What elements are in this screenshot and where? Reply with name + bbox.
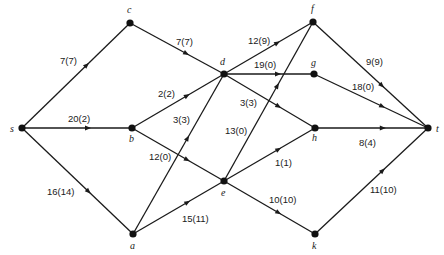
edge-label-d-g: 19(0) [254, 59, 276, 70]
node-label-g: g [311, 57, 316, 68]
arrow-icon [275, 103, 281, 108]
edge-a-e [133, 181, 224, 234]
edge-label-g-t: 18(0) [352, 81, 374, 92]
node-label-f: f [311, 3, 315, 14]
edge-label-b-d: 2(2) [158, 88, 175, 99]
node-g [310, 70, 317, 77]
node-t [424, 124, 431, 131]
edge-label-a-d: 3(3) [173, 114, 190, 125]
flow-network-diagram: 7(7)20(2)16(14)7(7)2(2)12(0)3(3)15(11)12… [0, 0, 444, 255]
node-b [128, 124, 135, 131]
labels-layer: 7(7)20(2)16(14)7(7)2(2)12(0)3(3)15(11)12… [10, 3, 439, 251]
arrow-icon [380, 126, 386, 131]
edge-a-d [133, 74, 224, 234]
arrow-icon [183, 156, 189, 161]
edge-label-b-e: 12(0) [149, 151, 171, 162]
node-label-t: t [436, 123, 439, 134]
arrow-icon [183, 94, 189, 99]
edge-label-s-b: 20(2) [68, 113, 90, 124]
edge-label-c-d: 7(7) [176, 36, 193, 47]
edge-f-t [313, 22, 428, 128]
arrow-icon [274, 41, 280, 46]
arrow-icon [274, 83, 279, 89]
node-label-e: e [221, 187, 226, 198]
edge-label-d-h: 3(3) [240, 97, 257, 108]
edge-label-e-f: 13(0) [225, 125, 247, 136]
edge-label-f-t: 9(9) [366, 56, 383, 67]
arrow-icon [184, 201, 190, 206]
edge-label-a-e: 15(11) [182, 213, 209, 224]
arrow-icon [275, 148, 281, 153]
node-d [220, 70, 227, 77]
edge-s-a [22, 128, 133, 234]
node-e [220, 177, 227, 184]
arrow-icon [184, 135, 189, 141]
node-h [311, 124, 318, 131]
arrow-icon [183, 50, 189, 55]
edge-label-d-f: 12(9) [248, 35, 270, 46]
node-a [129, 230, 136, 237]
edge-label-e-h: 1(1) [275, 157, 292, 168]
node-label-s: s [10, 123, 14, 134]
edge-label-s-a: 16(14) [47, 186, 74, 197]
node-label-d: d [220, 56, 226, 67]
edge-e-k [224, 181, 315, 234]
edge-label-k-t: 11(10) [370, 184, 397, 195]
node-label-c: c [127, 4, 132, 15]
node-label-k: k [312, 240, 317, 251]
node-label-h: h [312, 132, 317, 143]
node-f [309, 18, 316, 25]
node-label-b: b [129, 133, 134, 144]
edge-label-h-t: 8(4) [359, 137, 376, 148]
edge-label-e-k: 10(10) [269, 194, 296, 205]
arrow-icon [85, 126, 91, 131]
node-k [311, 230, 318, 237]
node-label-a: a [130, 240, 135, 251]
edge-c-d [130, 23, 224, 74]
arrow-icon [275, 209, 281, 214]
arrow-icon [275, 72, 281, 77]
node-s [18, 124, 25, 131]
node-c [126, 19, 133, 26]
edge-label-s-c: 7(7) [60, 55, 77, 66]
arrow-icon [379, 103, 385, 108]
